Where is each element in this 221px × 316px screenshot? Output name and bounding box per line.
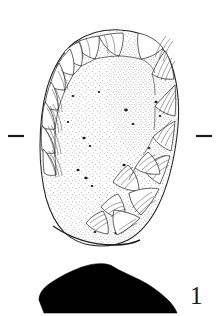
artifact-section-group <box>39 264 177 313</box>
archaeological-figure: 1 <box>0 0 221 316</box>
figure-number-label: 1 <box>190 283 203 308</box>
artifact-plan-group <box>40 30 192 247</box>
lithic-illustration-svg <box>0 0 221 316</box>
artifact-section-silhouette <box>39 264 177 313</box>
